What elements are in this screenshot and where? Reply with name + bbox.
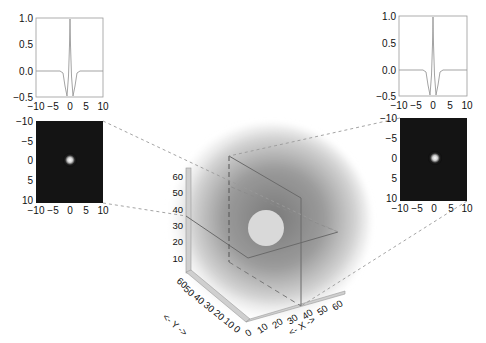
x-tick: 0	[431, 203, 437, 214]
x-tick: 5	[83, 205, 89, 216]
y-tick: 0	[391, 153, 397, 164]
y-tick: −10	[16, 116, 33, 127]
z-tick: 60	[172, 171, 183, 182]
x-tick: −5	[410, 100, 422, 111]
y-tick: −10	[380, 113, 397, 124]
left-image-plot: −10 −5 0 5 10 −10 −5 0 5 10	[16, 116, 109, 216]
x-tick: −5	[411, 203, 423, 214]
z-tick: 10	[172, 253, 183, 264]
y-tick: 0.5	[382, 38, 396, 49]
x-tick: 5	[448, 203, 454, 214]
x-tick: 5	[83, 101, 89, 112]
figure-canvas: 60 50 40 30 20 10 60 50 40 30 20 10 0 <-…	[0, 0, 486, 343]
x-tick: −10	[392, 203, 409, 214]
left-profile-plot: 1.0 0.5 0.0 −0.5 −10 −5 0 5 10	[13, 13, 109, 112]
y-tick: 5	[391, 173, 397, 184]
z-tick: 50	[172, 187, 183, 198]
y-tick: 5	[27, 175, 33, 186]
x-tick: −10	[28, 205, 45, 216]
x-tick: 60	[330, 298, 345, 313]
y-tick: 0.0	[382, 65, 396, 76]
y-tick: −5	[22, 136, 34, 147]
y-axis-label: <- Y ->	[161, 311, 190, 338]
x-tick: 5	[447, 100, 453, 111]
x-tick: −5	[47, 101, 59, 112]
y-tick: 0.0	[19, 66, 33, 77]
x-tick: 0	[430, 100, 436, 111]
x-tick: −10	[391, 100, 408, 111]
x-tick: 10	[461, 100, 473, 111]
x-tick: 10	[97, 205, 109, 216]
y-tick: −5	[386, 133, 398, 144]
x-tick: 10	[255, 321, 270, 336]
right-profile-plot: 1.0 0.5 0.0 −0.5 −10 −5 0 5 10	[376, 11, 473, 111]
z-tick: 40	[172, 204, 183, 215]
x-tick: 0	[243, 327, 254, 339]
z-axis-ruler	[186, 168, 191, 273]
x-tick: 10	[461, 203, 473, 214]
bright-sphere	[248, 210, 284, 246]
bright-spot	[428, 151, 442, 165]
y-tick: 1.0	[19, 13, 33, 24]
bright-spot	[63, 153, 77, 167]
x-tick: −5	[47, 205, 59, 216]
x-tick: −10	[28, 101, 45, 112]
x-tick: 10	[97, 101, 109, 112]
y-tick: 0.5	[19, 39, 33, 50]
volume-3d-plot: 60 50 40 30 20 10 60 50 40 30 20 10 0 <-…	[161, 124, 370, 339]
x-tick: 0	[67, 205, 73, 216]
y-tick: 1.0	[382, 11, 396, 22]
z-tick: 20	[172, 236, 183, 247]
y-tick: 0	[27, 155, 33, 166]
z-tick: 30	[172, 220, 183, 231]
x-tick: 0	[67, 101, 73, 112]
right-image-plot: −10 −5 0 5 10 −10 −5 0 5 10	[380, 113, 473, 214]
